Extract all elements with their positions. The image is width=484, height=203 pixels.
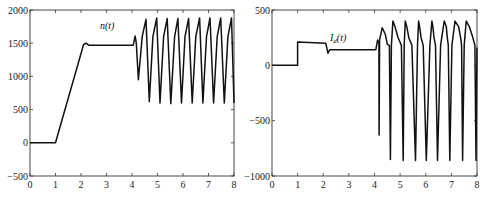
- current-y-tick-label: −1000: [244, 171, 270, 182]
- current-y-tick-label: 0: [265, 60, 270, 71]
- current-x-tick-label: 8: [475, 179, 480, 190]
- current-x-tick-label: 5: [398, 179, 403, 190]
- current-x-tick-label: 7: [449, 179, 454, 190]
- speed-x-tick-label: 5: [155, 179, 160, 190]
- speed-x-tick-label: 8: [232, 179, 237, 190]
- current-chart-frame: [272, 10, 477, 176]
- speed-annotation: n(t): [100, 20, 115, 32]
- speed-chart-panel: 0123456782000150010005000−500 n(t): [7, 5, 236, 191]
- speed-x-tick-label: 4: [130, 179, 135, 190]
- current-x-tick-label: 3: [346, 179, 351, 190]
- speed-y-tick-label: 1500: [8, 38, 28, 49]
- current-curve: [272, 21, 477, 160]
- speed-x-tick-label: 6: [181, 179, 186, 190]
- speed-y-tick-label: −500: [7, 171, 28, 182]
- current-x-tick-label: 0: [270, 179, 275, 190]
- chart-figure: 0123456782000150010005000−500 n(t) 01234…: [0, 0, 484, 203]
- current-y-tick-label: 500: [255, 5, 270, 16]
- speed-x-tick-label: 2: [79, 179, 84, 190]
- speed-y-tick-label: 500: [13, 104, 28, 115]
- current-x-tick-label: 2: [321, 179, 326, 190]
- speed-x-tick-label: 0: [28, 179, 33, 190]
- current-chart-panel: 0123456785000−500−1000 Id(t): [244, 5, 479, 191]
- current-x-tick-label: 6: [423, 179, 428, 190]
- current-y-tick-label: −500: [249, 115, 270, 126]
- current-x-tick-label: 1: [295, 179, 300, 190]
- current-annotation: Id(t): [329, 32, 347, 45]
- speed-x-tick-label: 7: [206, 179, 211, 190]
- speed-x-tick-label: 3: [104, 179, 109, 190]
- speed-x-tick-label: 1: [53, 179, 58, 190]
- speed-y-tick-label: 1000: [8, 71, 28, 82]
- speed-curve: [30, 18, 234, 143]
- current-annotation-arg: (t): [337, 32, 347, 44]
- current-x-tick-label: 4: [372, 179, 377, 190]
- speed-y-tick-label: 0: [23, 137, 28, 148]
- speed-y-tick-label: 2000: [8, 5, 28, 16]
